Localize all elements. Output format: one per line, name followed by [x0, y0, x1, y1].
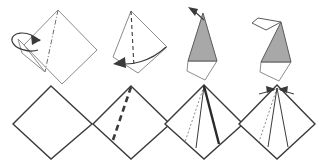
origami-instruction-figure: [0, 0, 317, 161]
origami-diagram-canvas: [0, 0, 317, 161]
